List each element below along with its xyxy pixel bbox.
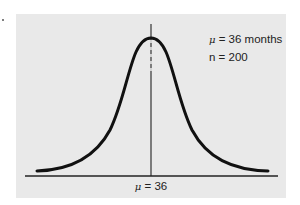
normal-curve-plot: [0, 0, 300, 205]
annotation-mean: μ = 36 months: [209, 34, 282, 46]
annotation-n-text: n = 200: [209, 51, 248, 63]
mean-axis-value: = 36: [141, 180, 167, 192]
mean-axis-label: μ = 36: [120, 180, 182, 192]
annotation-n: n = 200: [209, 52, 248, 64]
annotation-mean-text: = 36 months: [216, 33, 283, 45]
